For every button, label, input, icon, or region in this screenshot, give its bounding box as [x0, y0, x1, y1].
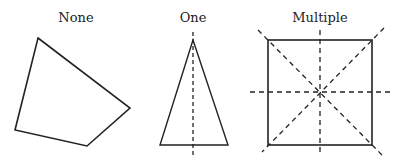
symmetry-diagram: [0, 0, 400, 167]
triangle-shape: [160, 32, 228, 156]
square-shape: [250, 28, 393, 155]
symmetry-line-diagonal-2: [262, 28, 384, 152]
quadrilateral-shape: [15, 38, 130, 146]
